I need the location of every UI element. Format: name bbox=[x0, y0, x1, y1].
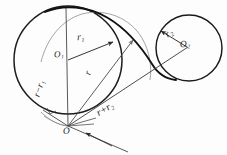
segment-o-to-o2 bbox=[68, 47, 188, 126]
dimension-arrow-lower-right bbox=[68, 126, 128, 152]
geometry-figure bbox=[0, 0, 227, 155]
label-radius-1: r₁ bbox=[77, 32, 85, 42]
label-center-1: O₁ bbox=[54, 50, 64, 60]
arrow-radius-1 bbox=[68, 42, 113, 60]
label-center-2: O₂ bbox=[179, 39, 190, 50]
arc-radius-r bbox=[41, 12, 151, 80]
label-point-o: O bbox=[63, 127, 71, 137]
o-leader-strokes bbox=[68, 118, 96, 126]
diagram-canvas: O₁ O₂ O r₁ r₂ r r−r₁ r+r₂ bbox=[0, 0, 227, 155]
